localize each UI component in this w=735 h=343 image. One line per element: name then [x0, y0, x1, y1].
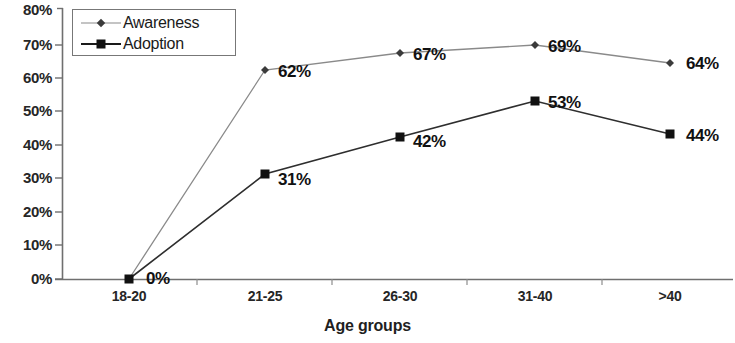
y-tick-label: 30%	[0, 169, 52, 186]
square-marker-icon	[97, 39, 106, 48]
y-tick-label: 80%	[0, 1, 52, 18]
x-tick-label: 31-40	[518, 288, 552, 304]
data-label: 44%	[686, 126, 719, 146]
x-tick-label: 21-25	[248, 288, 282, 304]
x-tick-label: 26-30	[383, 288, 417, 304]
legend-label-adoption: Adoption	[123, 35, 184, 53]
legend-item-adoption: Adoption	[79, 33, 235, 54]
y-tick-label: 20%	[0, 203, 52, 220]
x-tick-label: 18-20	[112, 288, 146, 304]
y-tick-label: 50%	[0, 102, 52, 119]
series-line-adoption	[129, 101, 670, 279]
x-axis-labels: 18-20 21-25 26-30 31-40 >40	[0, 288, 735, 312]
data-label: 67%	[413, 45, 446, 65]
data-label: 42%	[413, 132, 446, 152]
legend-key-awareness	[79, 15, 123, 31]
series-markers-awareness	[125, 41, 674, 283]
legend-key-adoption	[79, 36, 123, 52]
y-tick-label: 60%	[0, 69, 52, 86]
y-tick-label: 70%	[0, 36, 52, 53]
y-tick-label: 0%	[0, 270, 52, 287]
series-line-awareness	[129, 45, 670, 279]
y-tick-label: 40%	[0, 136, 52, 153]
chart-legend: Awareness Adoption	[72, 9, 236, 56]
line-chart: 80% 70% 60% 50% 40% 30% 20% 10% 0% 18-20…	[0, 0, 735, 343]
diamond-marker-icon	[97, 18, 105, 26]
x-axis-title: Age groups	[0, 317, 735, 335]
legend-label-awareness: Awareness	[123, 14, 199, 32]
data-label: 69%	[548, 37, 581, 57]
series-markers-adoption	[125, 97, 675, 284]
data-label: 62%	[278, 62, 311, 82]
y-tick-label: 10%	[0, 236, 52, 253]
x-tick-label: >40	[659, 288, 682, 304]
legend-item-awareness: Awareness	[79, 12, 235, 33]
data-label: 53%	[548, 93, 581, 113]
data-label: 64%	[686, 54, 719, 74]
data-label: 31%	[278, 170, 311, 190]
data-label: 0%	[146, 269, 170, 289]
